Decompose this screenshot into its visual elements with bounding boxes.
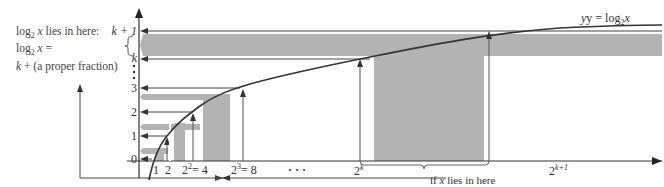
note-line-1: log2 x lies in here:: [16, 25, 118, 42]
svg-text:3: 3: [131, 81, 137, 95]
outer-left-arrow-icon: [222, 175, 230, 181]
y-ellipsis: [133, 65, 135, 79]
svg-text:1: 1: [131, 129, 137, 143]
col-2-4: [174, 123, 185, 161]
svg-text:23= 8: 23= 8: [231, 162, 257, 177]
curve-label: yy = log2x: [580, 11, 630, 27]
svg-text:2k+1: 2k+1: [549, 163, 568, 178]
outer-up-arrow-icon: [77, 84, 83, 92]
range-note: log2 x lies in here: log2 x = k + (a pro…: [16, 25, 118, 73]
note-line-2: log2 x =: [16, 42, 118, 59]
svg-text:1: 1: [153, 163, 159, 177]
svg-text:0: 0: [131, 152, 137, 166]
svg-text:2: 2: [165, 163, 171, 177]
x-axis-arrow-icon: [652, 157, 662, 165]
x-brace: [360, 161, 489, 169]
svg-text:22= 4: 22= 4: [182, 162, 208, 177]
svg-text:k: k: [132, 51, 138, 65]
col-4-8: [203, 96, 230, 161]
svg-text:2: 2: [131, 105, 137, 119]
note-line-3: k + (a proper fraction): [16, 60, 118, 73]
svg-text:2k: 2k: [354, 163, 364, 178]
svg-text:· · ·: · · ·: [288, 163, 306, 177]
y-axis-arrow-icon: [135, 8, 143, 18]
x-tick-labels: 1 2 22= 4 23= 8 · · · 2k 2k+1: [153, 162, 568, 178]
bottom-note: if x lies in here: [430, 174, 496, 186]
